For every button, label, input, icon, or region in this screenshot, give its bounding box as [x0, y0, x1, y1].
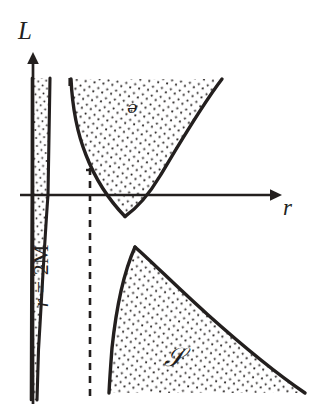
horizon-dashed-line	[86, 168, 94, 400]
diagram-svg	[0, 0, 325, 411]
radius-axis-arrowhead	[270, 189, 282, 201]
axis-label-L: L	[18, 18, 32, 43]
axis-label-r: r	[283, 196, 292, 219]
figure-canvas: L r ᵊ 𝒮 r = 2M	[0, 0, 325, 411]
region-south	[109, 247, 305, 393]
horizon-label-variable: r	[28, 299, 53, 308]
horizon-label-equals: =	[28, 275, 53, 298]
horizon-label: r = 2M	[30, 234, 52, 318]
region-label-north: ᵊ	[127, 99, 138, 127]
horizon-label-value: 2M	[28, 245, 53, 276]
angular-momentum-axis-arrowhead	[27, 52, 39, 64]
region-label-south: 𝒮	[164, 344, 184, 370]
